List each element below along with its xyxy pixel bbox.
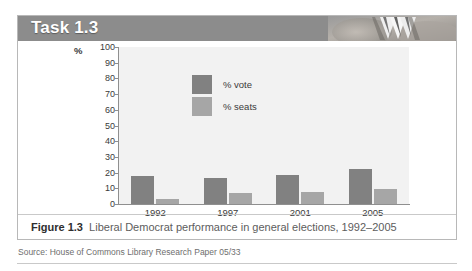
y-axis-tick-mark — [115, 173, 118, 174]
y-axis-tick: 80 — [87, 74, 115, 83]
y-axis-tick: 100 — [87, 43, 115, 52]
bar-2001-vote — [276, 175, 299, 204]
task-title: Task 1.3 — [31, 18, 98, 38]
bar-1997-vote — [204, 178, 227, 204]
y-axis-tick-mark — [115, 63, 118, 64]
legend-swatch-icon — [192, 75, 212, 94]
chart-legend: % vote% seats — [192, 75, 312, 119]
figure-source: Source: House of Commons Library Researc… — [18, 247, 241, 257]
hands-photo-decoration-icon — [328, 16, 456, 41]
y-axis-tick: 50 — [87, 122, 115, 131]
chart-area: % 1009080706050403020100 199219972001200… — [18, 41, 456, 214]
task-header-band: Task 1.3 — [18, 16, 456, 41]
y-axis-tick: 10 — [87, 184, 115, 193]
y-axis-tick: 60 — [87, 106, 115, 115]
y-axis-line — [118, 47, 119, 205]
y-axis-tick: 20 — [87, 169, 115, 178]
bottom-divider — [17, 263, 457, 264]
y-axis-tick-mark — [115, 94, 118, 95]
y-axis-tick: 40 — [87, 137, 115, 146]
figure-caption-label: Figure 1.3 — [31, 221, 83, 233]
y-axis-tick-mark — [115, 110, 118, 111]
bar-2005-vote — [349, 169, 372, 204]
y-axis-tick: 90 — [87, 59, 115, 68]
y-axis-tick: 30 — [87, 153, 115, 162]
legend-label: % seats — [223, 101, 257, 112]
y-axis-tick-labels: 1009080706050403020100 — [84, 41, 115, 211]
figure-caption-inner: Figure 1.3 Liberal Democrat performance … — [31, 221, 397, 233]
figure-card: Task 1.3 — [17, 15, 457, 240]
page-root: Task 1.3 — [0, 0, 472, 271]
y-axis-tick: 70 — [87, 90, 115, 99]
bar-2001-seats — [301, 192, 324, 204]
legend-item: % vote — [192, 75, 312, 95]
y-axis-tick-mark — [115, 126, 118, 127]
y-axis-tick-mark — [115, 78, 118, 79]
x-axis-line — [118, 204, 410, 205]
bar-1992-seats — [156, 199, 179, 204]
y-axis-tick-mark — [115, 204, 118, 205]
legend-item: % seats — [192, 97, 312, 117]
y-axis-tick-mark — [115, 141, 118, 142]
bar-1992-vote — [131, 176, 154, 204]
legend-swatch-icon — [192, 97, 212, 116]
y-axis-tick-mark — [115, 47, 118, 48]
bar-1997-seats — [229, 193, 252, 204]
y-axis-tick-mark — [115, 157, 118, 158]
figure-caption: Figure 1.3 Liberal Democrat performance … — [18, 214, 456, 240]
y-axis-tick: 0 — [87, 200, 115, 209]
figure-caption-text: Liberal Democrat performance in general … — [89, 221, 397, 233]
legend-label: % vote — [223, 79, 252, 90]
y-axis-tick-mark — [115, 188, 118, 189]
bar-2005-seats — [374, 189, 397, 204]
y-axis-unit-label: % — [74, 45, 82, 56]
